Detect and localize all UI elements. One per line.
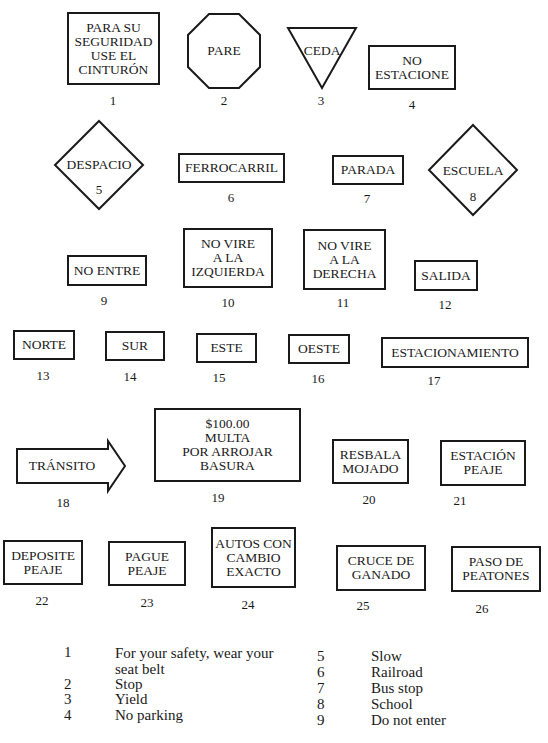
sign-exact-change: AUTOS CON CAMBIO EXACTO — [211, 527, 296, 588]
sign-east: ESTE — [196, 333, 257, 363]
sign-west: OESTE — [288, 334, 350, 364]
sign-number: 26 — [462, 601, 502, 617]
sign-number: 10 — [208, 295, 248, 311]
sign-pay-toll: PAGUE PEAJE — [108, 541, 186, 586]
sign-railroad: FERROCARRIL — [178, 153, 285, 183]
legend-number: 6 — [317, 665, 325, 681]
sign-slow-diamond: DESPACIO 5 — [54, 120, 144, 210]
sign-number: 23 — [127, 595, 167, 611]
legend-number: 9 — [317, 713, 325, 729]
sign-number: 20 — [349, 492, 389, 508]
sign-number: 1 — [93, 93, 133, 109]
sign-number: 18 — [43, 495, 83, 511]
sign-number: 25 — [343, 598, 383, 614]
sign-cattle-crossing: CRUCE DE GANADO — [336, 545, 426, 591]
sign-number: 6 — [211, 190, 251, 206]
sign-number: 12 — [425, 297, 465, 313]
sign-pedestrian-crossing: PASO DE PEATONES — [451, 546, 541, 592]
sign-bus-stop: PARADA — [332, 155, 404, 185]
legend-text: Yield — [115, 692, 148, 708]
legend-number: 1 — [64, 645, 72, 661]
sign-number: 3 — [301, 93, 341, 109]
sign-number: 8 — [428, 189, 518, 205]
sign-text: TRÁNSITO — [16, 458, 108, 474]
sign-north: NORTE — [13, 330, 75, 360]
sign-stop-octagon: PARE — [187, 13, 261, 89]
sign-number: 14 — [110, 369, 150, 385]
sign-traffic-arrow: TRÁNSITO — [16, 440, 126, 492]
sign-number: 11 — [323, 295, 363, 311]
sign-slippery-wet: RESBALA MOJADO — [332, 439, 409, 484]
sign-number: 19 — [198, 490, 238, 506]
sign-text: ESCUELA — [428, 163, 518, 179]
legend-text: For your safety, wear your — [115, 646, 274, 662]
sign-text: CEDA — [287, 43, 357, 59]
legend-text: Bus stop — [371, 681, 423, 697]
sign-litter-fine: $100.00 MULTA POR ARROJAR BASURA — [154, 408, 301, 482]
sign-parking: ESTACIONAMIENTO — [381, 337, 529, 368]
legend-text: Slow — [371, 649, 402, 665]
legend-text: Do not enter — [371, 713, 446, 729]
sign-no-entry: NO ENTRE — [67, 255, 147, 286]
sign-exit: SALIDA — [414, 260, 478, 291]
legend-number: 5 — [317, 649, 325, 665]
legend-number: 8 — [317, 697, 325, 713]
sign-number: 2 — [204, 93, 244, 109]
legend-text: Railroad — [371, 665, 423, 681]
legend-text: School — [371, 697, 413, 713]
sign-number: 5 — [54, 182, 144, 198]
sign-number: 21 — [440, 493, 480, 509]
sign-number: 4 — [392, 97, 432, 113]
legend-number: 7 — [317, 681, 325, 697]
sign-no-right-turn: NO VIRE A LA DERECHA — [303, 229, 386, 290]
legend-text: No parking — [115, 708, 183, 724]
sign-school-diamond: ESCUELA 8 — [428, 124, 518, 216]
sign-number: 13 — [23, 368, 63, 384]
sign-number: 16 — [298, 371, 338, 387]
sign-no-parking: NO ESTACIONE — [368, 45, 456, 90]
sign-number: 15 — [199, 370, 239, 386]
sign-number: 17 — [414, 373, 454, 389]
sign-seatbelt: PARA SU SEGURIDAD USE EL CINTURÓN — [67, 12, 160, 85]
sign-number: 9 — [84, 293, 124, 309]
sign-text: PARE — [187, 43, 261, 59]
sign-number: 24 — [228, 597, 268, 613]
sign-number: 7 — [347, 191, 387, 207]
sign-text: DESPACIO — [54, 157, 144, 173]
legend-number: 3 — [64, 692, 72, 708]
sign-deposit-toll: DEPOSITE PEAJE — [3, 540, 83, 585]
sign-south: SUR — [105, 331, 165, 361]
sign-number: 22 — [22, 593, 62, 609]
legend-number: 4 — [64, 708, 72, 724]
sign-yield-triangle: CEDA — [287, 27, 357, 89]
sign-toll-station: ESTACIÓN PEAJE — [440, 440, 526, 486]
sign-no-left-turn: NO VIRE A LA IZQUIERDA — [183, 228, 273, 288]
